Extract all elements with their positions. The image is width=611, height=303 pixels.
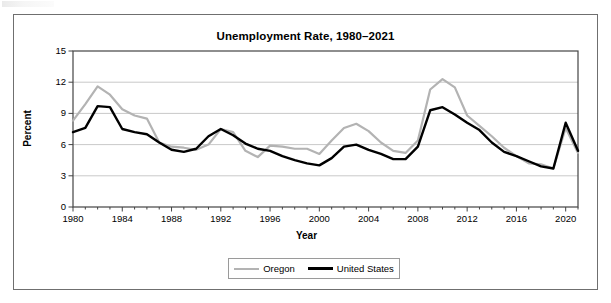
x-tick-label: 1992 <box>201 213 241 224</box>
y-tick-label: 6 <box>42 139 66 150</box>
y-tick-label: 12 <box>42 76 66 87</box>
series-line-united-states <box>73 106 578 168</box>
legend-label-united-states: United States <box>337 263 394 274</box>
chart-svg <box>14 15 599 291</box>
legend-item-united-states: United States <box>308 263 394 274</box>
chart-frame: Unemployment Rate, 1980–2021 Percent Yea… <box>13 14 598 290</box>
legend-label-oregon: Oregon <box>263 263 295 274</box>
y-tick-label: 9 <box>42 107 66 118</box>
series-line-oregon <box>73 79 578 168</box>
x-tick-label: 2016 <box>496 213 536 224</box>
x-axis-title: Year <box>14 230 599 241</box>
x-tick-label: 2000 <box>299 213 339 224</box>
x-tick-label: 1996 <box>250 213 290 224</box>
legend-swatch-united-states-icon <box>308 267 333 270</box>
plot-area: Percent Year 036912151980198419881992199… <box>14 15 599 291</box>
y-tick-label: 15 <box>42 45 66 56</box>
y-tick-label: 3 <box>42 170 66 181</box>
x-tick-label: 2020 <box>546 213 586 224</box>
chart-legend: Oregon United States <box>228 258 400 279</box>
x-tick-label: 1984 <box>102 213 142 224</box>
x-tick-label: 1980 <box>53 213 93 224</box>
x-tick-label: 2012 <box>447 213 487 224</box>
x-tick-label: 2008 <box>398 213 438 224</box>
legend-item-oregon: Oregon <box>234 263 295 274</box>
y-axis-title: Percent <box>22 99 33 159</box>
scan-artifact <box>2 1 54 7</box>
legend-swatch-oregon-icon <box>234 268 259 270</box>
x-tick-label: 1988 <box>152 213 192 224</box>
x-tick-label: 2004 <box>349 213 389 224</box>
y-tick-label: 0 <box>42 201 66 212</box>
plot-border <box>73 51 578 207</box>
